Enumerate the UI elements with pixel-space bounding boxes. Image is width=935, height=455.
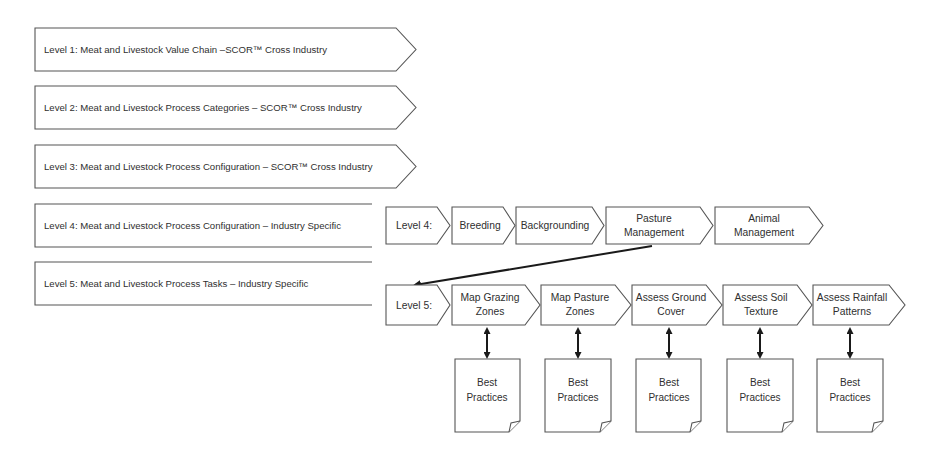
level-4-header-label: Level 4: — [396, 220, 432, 231]
level-2-chevron: Level 2: Meat and Livestock Process Cate… — [35, 86, 416, 129]
step-pasture-management-line1: Pasture — [636, 213, 672, 224]
doc-1-line1: Best — [477, 377, 497, 388]
task-map-pasture-zones-line1: Map Pasture — [551, 292, 610, 303]
best-practices-doc-2: Best Practices — [545, 359, 611, 432]
doc-5-line1: Best — [840, 377, 860, 388]
level-5-label: Level 5: Meat and Livestock Process Task… — [44, 278, 309, 289]
task-assess-ground-cover-line1: Assess Ground — [636, 292, 707, 303]
level-5-header-label: Level 5: — [396, 300, 432, 311]
level-5-header-chevron: Level 5: — [386, 285, 450, 325]
doc-2-line2: Practices — [557, 392, 598, 403]
step-pasture-management: Pasture Management — [606, 207, 713, 244]
level-3-label: Level 3: Meat and Livestock Process Conf… — [44, 161, 373, 172]
best-practices-doc-1: Best Practices — [455, 359, 520, 432]
doc-4-line1: Best — [750, 377, 770, 388]
step-breeding: Breeding — [452, 207, 515, 244]
level-4-header-chevron: Level 4: — [386, 207, 450, 244]
step-animal-management: Animal Management — [715, 207, 823, 244]
task-assess-rainfall-patterns: Assess Rainfall Patterns — [813, 285, 905, 325]
level-4-chevron: Level 4: Meat and Livestock Process Conf… — [35, 204, 416, 247]
task-assess-soil-texture: Assess Soil Texture — [723, 285, 812, 325]
step-animal-management-line1: Animal — [748, 213, 779, 224]
best-practices-doc-4: Best Practices — [727, 359, 793, 432]
level-3-chevron: Level 3: Meat and Livestock Process Conf… — [35, 145, 416, 188]
doc-1-line2: Practices — [466, 392, 507, 403]
level-2-label: Level 2: Meat and Livestock Process Cate… — [44, 102, 362, 113]
level-5-chevron: Level 5: Meat and Livestock Process Task… — [35, 262, 416, 305]
task-assess-ground-cover-line2: Cover — [657, 306, 685, 317]
level-1-label: Level 1: Meat and Livestock Value Chain … — [44, 44, 327, 55]
doc-4-line2: Practices — [739, 392, 780, 403]
doc-3-line2: Practices — [648, 392, 689, 403]
doc-5-line2: Practices — [829, 392, 870, 403]
best-practices-doc-3: Best Practices — [636, 359, 701, 432]
step-breeding-label: Breeding — [459, 220, 500, 231]
task-map-grazing-zones-line2: Zones — [476, 306, 505, 317]
task-map-pasture-zones-line2: Zones — [566, 306, 595, 317]
step-backgrounding: Backgrounding — [516, 207, 604, 244]
best-practices-doc-5: Best Practices — [817, 359, 883, 432]
task-assess-rainfall-patterns-line2: Patterns — [833, 306, 871, 317]
doc-2-line1: Best — [568, 377, 588, 388]
task-assess-soil-texture-line2: Texture — [744, 306, 778, 317]
task-map-pasture-zones: Map Pasture Zones — [541, 285, 631, 325]
step-pasture-management-line2: Management — [624, 227, 684, 238]
task-assess-soil-texture-line1: Assess Soil — [734, 292, 787, 303]
level-1-chevron: Level 1: Meat and Livestock Value Chain … — [35, 28, 416, 71]
level-4-label: Level 4: Meat and Livestock Process Conf… — [44, 220, 341, 231]
task-map-grazing-zones: Map Grazing Zones — [452, 285, 540, 325]
step-backgrounding-label: Backgrounding — [521, 220, 590, 231]
step-animal-management-line2: Management — [734, 227, 794, 238]
task-assess-ground-cover: Assess Ground Cover — [632, 285, 722, 325]
doc-3-line1: Best — [659, 377, 679, 388]
task-assess-rainfall-patterns-line1: Assess Rainfall — [817, 292, 887, 303]
task-map-grazing-zones-line1: Map Grazing — [461, 292, 520, 303]
